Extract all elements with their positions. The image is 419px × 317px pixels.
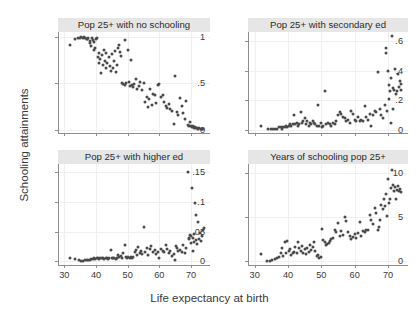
data-point xyxy=(383,103,386,106)
data-point xyxy=(115,63,118,66)
data-point xyxy=(375,111,378,114)
data-point xyxy=(114,49,117,52)
data-point xyxy=(387,69,390,72)
data-point xyxy=(381,208,384,211)
x-axis-tick xyxy=(64,133,65,136)
data-point xyxy=(136,88,139,91)
data-point xyxy=(120,257,123,260)
data-point xyxy=(335,120,338,123)
data-point xyxy=(321,227,324,230)
x-axis-tick xyxy=(288,133,289,136)
data-point xyxy=(293,114,296,117)
x-axis-tick xyxy=(96,265,97,268)
data-point xyxy=(335,231,338,234)
data-point xyxy=(399,187,402,190)
gridline-horizontal xyxy=(248,173,408,174)
x-axis-tick xyxy=(255,265,256,268)
x-axis-tick xyxy=(128,133,129,136)
gridline-vertical xyxy=(96,164,97,265)
x-axis-tick xyxy=(159,133,160,136)
panel-secondary-ed: Pop 25+ with secondary ed 0.2.4.6 xyxy=(248,18,408,133)
x-axis-tick xyxy=(128,265,129,268)
data-point xyxy=(367,118,370,121)
y-axis-tick-label: .1 xyxy=(197,197,205,207)
data-point xyxy=(368,214,371,217)
data-point xyxy=(142,226,145,229)
data-point xyxy=(345,219,348,222)
data-point xyxy=(285,252,288,255)
data-point xyxy=(194,201,197,204)
x-axis-line xyxy=(248,265,408,266)
data-point xyxy=(380,203,383,206)
y-axis-tick xyxy=(55,202,58,203)
data-point xyxy=(389,90,392,93)
data-point xyxy=(281,247,284,250)
y-axis-tick xyxy=(55,37,58,38)
data-point xyxy=(190,186,193,189)
data-point xyxy=(382,117,385,120)
data-point xyxy=(119,50,122,53)
data-point xyxy=(199,240,202,243)
data-point xyxy=(202,128,205,131)
y-axis-tick-label: .15 xyxy=(192,167,205,177)
data-point xyxy=(311,246,314,249)
x-axis-line xyxy=(58,265,210,266)
x-axis-line xyxy=(58,133,210,134)
y-axis-title: Schooling attainments xyxy=(18,55,30,235)
panel-title: Pop 25+ with secondary ed xyxy=(248,18,408,32)
y-axis-tick xyxy=(55,232,58,233)
gridline-horizontal xyxy=(58,130,210,131)
data-point xyxy=(297,240,300,243)
gridline-horizontal xyxy=(248,41,408,42)
x-axis-tick-label: 70 xyxy=(186,270,196,280)
data-point xyxy=(169,249,172,252)
data-point xyxy=(379,218,382,221)
data-point xyxy=(388,97,391,100)
data-point xyxy=(122,252,125,255)
panel-no-schooling: Pop 25+ with no schooling 0.51 xyxy=(58,18,210,133)
x-axis-tick xyxy=(388,265,389,268)
data-point xyxy=(161,93,164,96)
data-point xyxy=(69,44,72,47)
data-point xyxy=(378,108,381,111)
data-point xyxy=(178,97,181,100)
plot-area: 0.2.4.6 xyxy=(248,32,408,133)
data-point xyxy=(97,51,100,54)
gridline-horizontal xyxy=(248,130,408,131)
x-axis-tick xyxy=(96,133,97,136)
data-point xyxy=(185,100,188,103)
gridline-horizontal xyxy=(248,217,408,218)
data-point xyxy=(174,74,177,77)
data-point xyxy=(259,124,262,127)
panel-title: Pop 25+ with no schooling xyxy=(58,18,210,32)
data-point xyxy=(177,114,180,117)
data-point xyxy=(99,58,102,61)
data-point xyxy=(101,63,104,66)
y-axis-line xyxy=(58,164,59,265)
data-point xyxy=(377,228,380,231)
x-axis-tick-label: 70 xyxy=(383,270,393,280)
data-point xyxy=(127,80,130,83)
data-point xyxy=(370,218,373,221)
data-point xyxy=(395,90,398,93)
data-point xyxy=(132,256,135,259)
data-point xyxy=(323,90,326,93)
x-axis-tick-label: 40 xyxy=(91,270,101,280)
data-point xyxy=(373,207,376,210)
data-point xyxy=(87,36,90,39)
data-point xyxy=(319,256,322,259)
y-axis-line xyxy=(58,32,59,133)
data-point xyxy=(101,54,104,57)
data-point xyxy=(367,229,370,232)
y-axis-tick xyxy=(55,130,58,131)
data-point xyxy=(129,59,132,62)
gridline-vertical xyxy=(191,32,192,133)
y-axis-tick-label: .2 xyxy=(395,95,403,105)
y-axis-tick xyxy=(245,261,248,262)
data-point xyxy=(294,246,297,249)
data-point xyxy=(279,251,282,254)
gridline-vertical xyxy=(128,164,129,265)
data-point xyxy=(120,55,123,58)
panel-higher-ed: Pop 25+ with higher ed 0.05.1.1530405060… xyxy=(58,150,210,265)
gridline-vertical xyxy=(64,32,65,133)
